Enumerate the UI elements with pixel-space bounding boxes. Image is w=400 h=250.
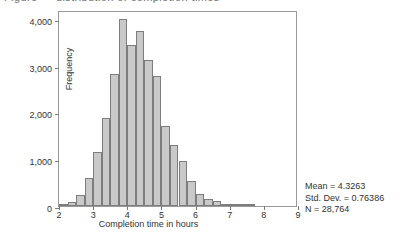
histogram-figure: Figure — distribution of completion time… <box>0 0 400 250</box>
histogram-bar <box>85 178 94 206</box>
histogram-bars <box>59 12 296 206</box>
x-axis-label: Completion time in hours <box>0 219 297 229</box>
stat-std-dev: Std. Dev. = 0.76386 <box>305 193 384 205</box>
y-axis-tick-label: 1,000 <box>29 157 55 166</box>
plot-area: 01,0002,0003,0004,000 23456789 Frequency <box>58 11 297 207</box>
histogram-bar <box>144 60 153 206</box>
stat-mean: Mean = 4.3263 <box>305 181 384 193</box>
histogram-bar <box>247 204 256 206</box>
histogram-bar <box>110 74 119 206</box>
histogram-bar <box>127 45 136 206</box>
histogram-bar <box>196 194 205 206</box>
statistics-annotation: Mean = 4.3263 Std. Dev. = 0.76386 N = 28… <box>305 181 384 216</box>
histogram-bar <box>238 204 247 206</box>
cropped-caption-text: Figure — distribution of completion time… <box>4 0 220 3</box>
histogram-bar <box>68 202 77 206</box>
y-axis-label: Frequency <box>64 14 74 124</box>
histogram-bar <box>59 204 68 206</box>
y-axis-tick-mark <box>55 114 59 115</box>
histogram-bar <box>76 195 85 206</box>
y-axis-tick-mark <box>55 161 59 162</box>
y-axis-tick-label: 4,000 <box>29 17 55 26</box>
histogram-bar <box>136 31 145 206</box>
stat-n: N = 28,764 <box>305 204 384 216</box>
histogram-bar <box>93 152 102 206</box>
histogram-bar <box>153 76 162 206</box>
histogram-bar <box>161 126 170 206</box>
histogram-bar <box>179 161 188 206</box>
histogram-bar <box>119 19 128 206</box>
y-axis-tick-mark <box>55 21 59 22</box>
y-axis-tick-label: 3,000 <box>29 64 55 73</box>
histogram-bar <box>170 145 179 206</box>
histogram-bar <box>204 199 213 206</box>
histogram-bar <box>102 118 111 206</box>
histogram-bar <box>213 201 222 206</box>
histogram-bar <box>221 204 230 206</box>
y-axis-tick-label: 2,000 <box>29 111 55 120</box>
cropped-caption-sliver: Figure — distribution of completion time… <box>0 0 400 5</box>
y-axis-tick-mark <box>55 68 59 69</box>
histogram-bar <box>230 204 239 206</box>
histogram-bar <box>187 181 196 206</box>
